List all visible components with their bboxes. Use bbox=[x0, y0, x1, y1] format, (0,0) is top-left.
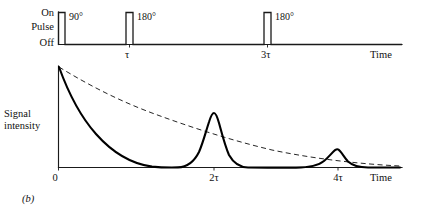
signal-axis-label-line1: Signal bbox=[4, 108, 31, 119]
pulse-axis-label-off: Off bbox=[40, 37, 55, 48]
pulse-label-180deg-first: 180° bbox=[137, 11, 156, 22]
pulse-axis-label-on: On bbox=[41, 7, 55, 18]
pulse-axis-label-time: Time bbox=[370, 49, 392, 60]
figure-container: On Pulse Off 90° 180° 180° τ 3τ Time bbox=[0, 0, 423, 213]
pulse-label-90deg: 90° bbox=[69, 11, 83, 22]
pulse-tick-label-3tau: 3τ bbox=[261, 49, 270, 60]
pulse-train-waveform bbox=[59, 13, 403, 45]
spin-echo-figure: On Pulse Off 90° 180° 180° τ 3τ Time bbox=[0, 0, 423, 213]
signal-tick-label-2tau: 2τ bbox=[209, 172, 218, 183]
signal-tick-label-4tau: 4τ bbox=[333, 172, 342, 183]
pulse-sequence-panel: On Pulse Off 90° 180° 180° τ 3τ Time bbox=[31, 7, 402, 61]
signal-tick-label-0: 0 bbox=[52, 172, 57, 183]
spin-echo-signal-curve bbox=[59, 67, 400, 168]
pulse-axis-label-pulse: Pulse bbox=[31, 21, 54, 32]
pulse-tick-label-tau: τ bbox=[125, 49, 129, 60]
signal-axis-label-time: Time bbox=[370, 172, 392, 183]
t2-envelope-curve bbox=[59, 67, 400, 166]
signal-intensity-panel: Signal intensity 0 2τ 4τ Time bbox=[4, 66, 402, 183]
pulse-label-180deg-second: 180° bbox=[275, 11, 294, 22]
figure-caption: (b) bbox=[22, 193, 35, 205]
signal-axis-label-line2: intensity bbox=[4, 120, 41, 131]
